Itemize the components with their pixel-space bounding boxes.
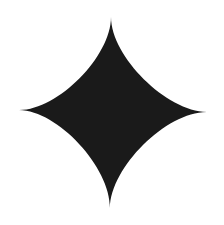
four-pointed-star-icon bbox=[0, 0, 224, 225]
image-canvas bbox=[0, 0, 224, 225]
star-shape bbox=[19, 17, 207, 208]
